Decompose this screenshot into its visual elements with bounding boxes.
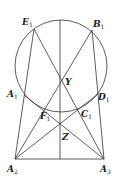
label-a3: A3	[99, 164, 111, 175]
label-a1: A1	[6, 89, 18, 100]
label-f1: F1	[39, 111, 50, 122]
label-y: Y	[65, 77, 73, 87]
label-z: Z	[61, 132, 69, 142]
label-a2: A2	[6, 164, 18, 175]
label-e1: E1	[21, 17, 33, 28]
segment-d1-a2	[15, 94, 98, 159]
label-d1: D1	[97, 92, 110, 103]
geometry-diagram: E1 B1 Y A1 D1 F1 C1 Z A2 A3	[0, 0, 123, 185]
segment-a2-e1	[15, 29, 34, 159]
segment-a1-a3	[24, 95, 104, 159]
label-c1: C1	[81, 109, 92, 120]
label-b1: B1	[92, 19, 104, 30]
